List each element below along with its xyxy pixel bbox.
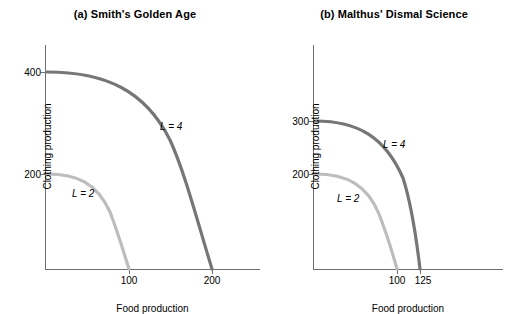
panel-b-ytick-200-label: 200 bbox=[292, 169, 309, 180]
panel-a-ytick-400-label: 400 bbox=[24, 67, 41, 78]
panel-a-plot-area: 400 200 100 200 L = 4 L = 2 Food product… bbox=[45, 45, 260, 270]
panel-b-xtick-100-label: 100 bbox=[389, 275, 406, 286]
panel-b-y-axis-title: Clothing production bbox=[310, 87, 321, 207]
panel-b-x-axis-title: Food production bbox=[313, 303, 503, 314]
panel-a-curves bbox=[45, 45, 260, 270]
panel-a-xtick-200-label: 200 bbox=[204, 275, 221, 286]
panel-b-ytick-300-label: 300 bbox=[292, 116, 309, 127]
panel-a-y-axis-title: Clothing production bbox=[42, 87, 53, 207]
panel-b-plot-area: 300 200 100 125 L = 4 L = 2 Food product… bbox=[313, 45, 503, 270]
panel-a-ytick-200-label: 200 bbox=[24, 169, 41, 180]
panel-b-curve-l2 bbox=[315, 174, 397, 269]
chart-panel-a: (a) Smith's Golden Age 400 200 100 200 L… bbox=[0, 0, 270, 313]
panel-b-label-l4: L = 4 bbox=[383, 139, 405, 150]
panel-b-xtick-125-label: 125 bbox=[415, 275, 432, 286]
panel-a-x-axis-title: Food production bbox=[45, 303, 260, 314]
panel-a-curve-l4 bbox=[47, 72, 212, 269]
panel-a-xtick-100-label: 100 bbox=[121, 275, 138, 286]
panel-a-label-l4: L = 4 bbox=[160, 121, 182, 132]
panel-b-title: (b) Malthus' Dismal Science bbox=[270, 8, 518, 20]
chart-panel-b: (b) Malthus' Dismal Science 300 200 100 … bbox=[270, 0, 518, 313]
panel-a-label-l2: L = 2 bbox=[72, 188, 94, 199]
panel-a-title: (a) Smith's Golden Age bbox=[0, 8, 270, 20]
panel-b-curves bbox=[313, 45, 503, 270]
panel-b-label-l2: L = 2 bbox=[337, 193, 359, 204]
